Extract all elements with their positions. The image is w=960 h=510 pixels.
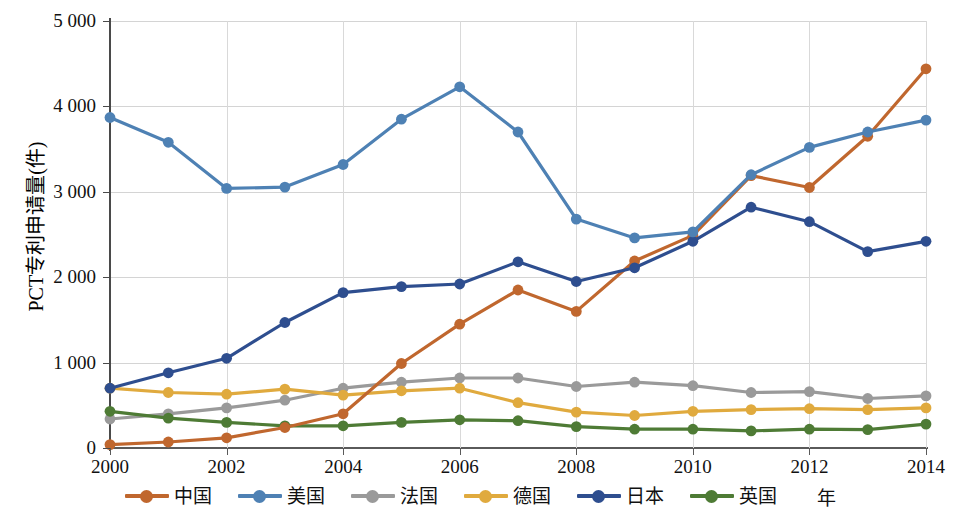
x-axis-tick-label: 2010 (648, 457, 738, 476)
legend-marker-icon-4 (577, 489, 621, 503)
gridline-horizontal (110, 192, 926, 193)
legend-label-1: 美国 (287, 487, 325, 506)
y-axis-tick-label: 1 000 (20, 353, 96, 372)
gridline-vertical (343, 21, 344, 448)
x-axis-tick (343, 448, 344, 455)
legend-item-4[interactable]: 日本 (577, 487, 664, 506)
x-axis-tick (110, 448, 111, 455)
legend-dot-3 (479, 490, 492, 503)
legend-marker-icon-5 (690, 489, 734, 503)
legend-item-1[interactable]: 美国 (238, 487, 325, 506)
y-axis-title: PCT专利申请量(件) (20, 97, 49, 357)
x-axis-tick-label: 2004 (298, 457, 388, 476)
legend-label-3: 德国 (513, 487, 551, 506)
plot-area (110, 21, 926, 448)
legend-item-0[interactable]: 中国 (125, 487, 212, 506)
gridline-horizontal (110, 363, 926, 364)
x-axis-tick-label: 2000 (65, 457, 155, 476)
legend-dot-2 (366, 490, 379, 503)
chart-figure: PCT专利申请量(件) 中国 美国 法国 德国 (0, 0, 960, 510)
x-axis-tick (693, 448, 694, 455)
legend-label-2: 法国 (400, 487, 438, 506)
gridline-vertical (809, 21, 810, 448)
x-axis-tick (460, 448, 461, 455)
y-axis-tick-label: 2 000 (20, 267, 96, 286)
gridline-horizontal (110, 21, 926, 22)
y-axis-tick (103, 106, 111, 107)
y-axis-tick (103, 277, 111, 278)
y-axis-tick-label: 5 000 (20, 11, 96, 30)
x-axis-tick (576, 448, 577, 455)
legend-dot-0 (140, 490, 153, 503)
y-axis-tick-label: 0 (20, 438, 96, 457)
x-axis-unit-label: 年 (817, 483, 836, 510)
gridline-horizontal (110, 106, 926, 107)
legend-dot-4 (592, 490, 605, 503)
legend-label-5: 英国 (739, 487, 777, 506)
legend-item-3[interactable]: 德国 (464, 487, 551, 506)
legend-item-2[interactable]: 法国 (351, 487, 438, 506)
y-axis-tick (103, 363, 111, 364)
x-axis-tick (926, 448, 927, 455)
gridline-vertical (576, 21, 577, 448)
y-axis-tick (103, 192, 111, 193)
legend-marker-icon-0 (125, 489, 169, 503)
legend-label-4: 日本 (626, 487, 664, 506)
gridline-vertical (227, 21, 228, 448)
y-axis-tick-label: 4 000 (20, 96, 96, 115)
legend-item-5[interactable]: 英国 (690, 487, 777, 506)
y-axis-tick (103, 21, 111, 22)
chart-legend: 中国 美国 法国 德国 日本 (0, 482, 960, 510)
x-axis-tick-label: 2014 (881, 457, 960, 476)
x-axis-tick (227, 448, 228, 455)
x-axis-tick-label: 2012 (764, 457, 854, 476)
x-axis-tick-label: 2008 (531, 457, 621, 476)
legend-marker-icon-2 (351, 489, 395, 503)
legend-dot-5 (705, 490, 718, 503)
x-axis-tick-label: 2006 (415, 457, 505, 476)
legend-dot-1 (253, 490, 266, 503)
x-axis-tick (809, 448, 810, 455)
x-axis-tick-label: 2002 (182, 457, 272, 476)
y-axis-tick-label: 3 000 (20, 182, 96, 201)
gridline-horizontal (110, 277, 926, 278)
gridline-vertical (926, 21, 927, 448)
legend-label-0: 中国 (174, 487, 212, 506)
legend-marker-icon-1 (238, 489, 282, 503)
gridline-vertical (460, 21, 461, 448)
gridline-vertical (693, 21, 694, 448)
legend-marker-icon-3 (464, 489, 508, 503)
